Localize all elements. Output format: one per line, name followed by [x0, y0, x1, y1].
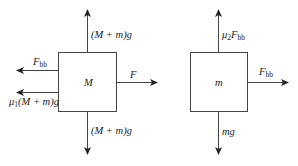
- force-label-right-m: Fbb: [258, 66, 273, 79]
- force-label-left-top-M: Fbb: [32, 56, 47, 69]
- block-M-label: M: [83, 77, 94, 88]
- force-label-left-bottom-M: μ1(M + m)g: [8, 96, 59, 109]
- force-label-right-M: F: [129, 69, 137, 80]
- force-label-up-M: (M + m)g: [91, 29, 132, 41]
- force-label-down-m: mg: [222, 126, 235, 137]
- force-label-down-M: (M + m)g: [91, 125, 132, 137]
- block-m: m: [191, 53, 248, 112]
- block-M: M: [59, 53, 117, 112]
- free-body-diagram: M (M + m)g (M + m)g F Fbb μ1(M + m)g m μ…: [0, 0, 298, 166]
- force-label-up-m: μ2Fbb: [221, 29, 245, 42]
- block-m-label: m: [215, 77, 223, 88]
